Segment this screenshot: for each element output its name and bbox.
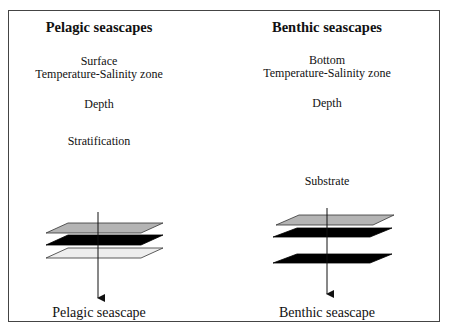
seascape-layers-diagram [0,0,451,336]
benthic-layers [273,215,394,263]
pelagic-layers [46,223,163,258]
benthic-layer-middle [273,228,392,237]
benthic-layer-substrate [273,254,392,263]
pelagic-layer-surface [46,223,163,233]
benthic-layer-top [276,215,394,225]
pelagic-layer-middle [46,235,163,245]
pelagic-layer-bottom [46,248,163,258]
